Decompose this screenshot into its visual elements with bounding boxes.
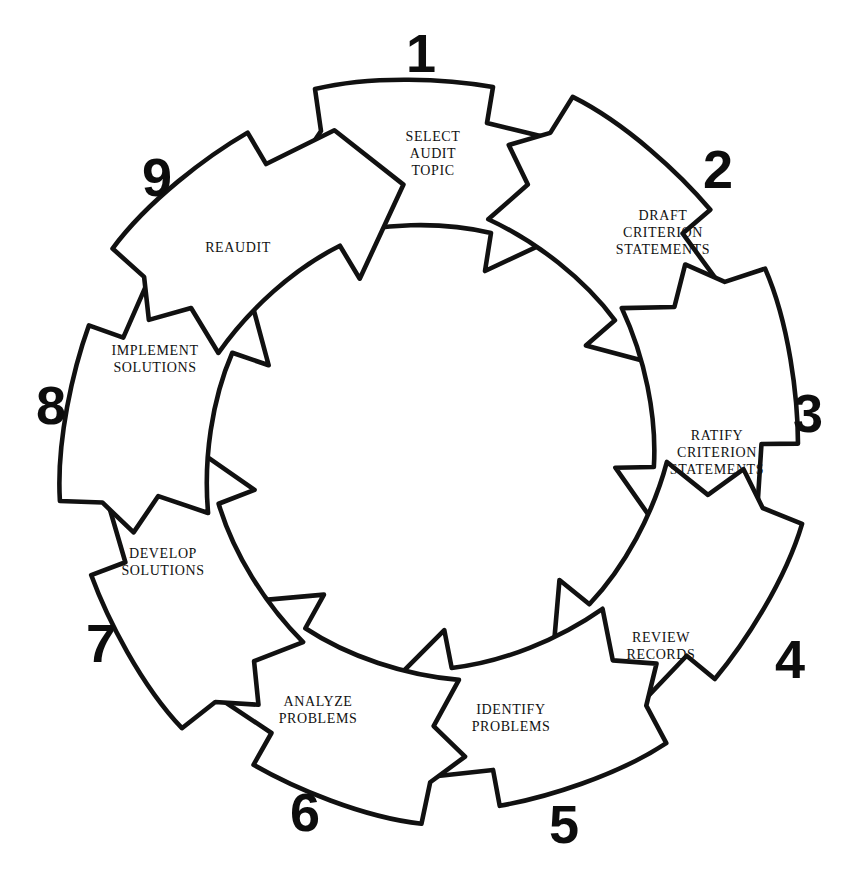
step-number-3: 3 <box>793 383 823 443</box>
step-number-4: 4 <box>775 629 805 689</box>
label-line: REVIEW <box>632 630 690 645</box>
label-line: STATEMENTS <box>616 242 710 257</box>
label-line: DEVELOP <box>129 546 197 561</box>
label-line: SELECT <box>406 129 461 144</box>
label-line: TOPIC <box>411 163 454 178</box>
step-number-6: 6 <box>290 782 320 842</box>
label-line: STATEMENTS <box>670 462 764 477</box>
label-line: AUDIT <box>410 146 457 161</box>
step-number-1: 1 <box>406 23 436 83</box>
label-line: PROBLEMS <box>279 711 358 726</box>
label-line: CRITERION <box>623 225 703 240</box>
clinical-audit-cycle-diagram: SELECTAUDITTOPICDRAFTCRITERIONSTATEMENTS… <box>0 0 865 887</box>
label-line: ANALYZE <box>284 694 353 709</box>
label-line: REAUDIT <box>205 240 271 255</box>
label-line: DRAFT <box>639 208 688 223</box>
label-line: RATIFY <box>691 428 744 443</box>
label-line: CRITERION <box>677 445 757 460</box>
arrow-label-9: REAUDIT <box>205 240 271 255</box>
label-line: IMPLEMENT <box>111 343 198 358</box>
step-number-7: 7 <box>86 613 116 673</box>
label-line: SOLUTIONS <box>121 563 204 578</box>
step-number-8: 8 <box>36 375 66 435</box>
diagram-canvas: SELECTAUDITTOPICDRAFTCRITERIONSTATEMENTS… <box>0 0 865 887</box>
step-number-5: 5 <box>549 794 579 854</box>
label-line: RECORDS <box>627 647 696 662</box>
arrow-label-1: SELECTAUDITTOPIC <box>406 129 461 178</box>
step-number-2: 2 <box>703 139 733 199</box>
label-line: SOLUTIONS <box>113 360 196 375</box>
label-line: IDENTIFY <box>476 702 545 717</box>
step-number-9: 9 <box>142 147 172 207</box>
label-line: PROBLEMS <box>472 719 551 734</box>
